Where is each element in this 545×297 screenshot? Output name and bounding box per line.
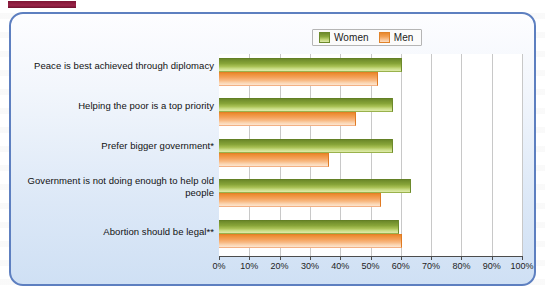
plot-area: 0%10%20%30%40%50%60%70%80%90%100% bbox=[219, 54, 522, 256]
chart-legend: Women Men bbox=[312, 29, 422, 46]
category-label-2: Prefer bigger government* bbox=[16, 140, 214, 152]
x-tick-90% bbox=[492, 256, 493, 260]
category-label-1: Helping the poor is a top priority bbox=[16, 100, 214, 112]
x-tick-label-20%: 20% bbox=[271, 261, 289, 271]
x-tick-30% bbox=[310, 256, 311, 260]
bar-women-4 bbox=[219, 220, 399, 234]
x-tick-70% bbox=[431, 256, 432, 260]
x-tick-label-90%: 90% bbox=[483, 261, 501, 271]
x-tick-label-80%: 80% bbox=[452, 261, 470, 271]
category-axis-labels: Peace is best achieved through diplomacy… bbox=[16, 54, 214, 256]
bar-women-1 bbox=[219, 98, 393, 112]
bar-men-4 bbox=[219, 234, 402, 248]
x-tick-label-30%: 30% bbox=[301, 261, 319, 271]
category-label-3: Government is not doing enough to help o… bbox=[16, 175, 214, 198]
x-tick-label-60%: 60% bbox=[392, 261, 410, 271]
legend-swatch-men-icon bbox=[379, 32, 390, 43]
x-tick-0% bbox=[219, 256, 220, 260]
bar-men-2 bbox=[219, 153, 329, 167]
bar-men-3 bbox=[219, 193, 381, 207]
gridline-100% bbox=[522, 54, 523, 256]
legend-label-women: Women bbox=[334, 32, 369, 43]
legend-label-men: Men bbox=[394, 32, 414, 43]
bar-group-1 bbox=[219, 94, 522, 134]
chart-panel: Women Men Peace is best achieved through… bbox=[9, 12, 536, 286]
category-label-4: Abortion should be legal** bbox=[16, 226, 214, 238]
x-tick-label-0%: 0% bbox=[212, 261, 225, 271]
legend-entry-men: Men bbox=[379, 32, 414, 43]
x-tick-50% bbox=[371, 256, 372, 260]
x-tick-10% bbox=[249, 256, 250, 260]
screenshot-root: Women Men Peace is best achieved through… bbox=[0, 0, 545, 297]
x-tick-20% bbox=[280, 256, 281, 260]
bar-men-1 bbox=[219, 112, 356, 126]
x-tick-100% bbox=[522, 256, 523, 260]
corner-tab-marker bbox=[8, 1, 76, 8]
x-tick-label-40%: 40% bbox=[331, 261, 349, 271]
bar-group-0 bbox=[219, 54, 522, 94]
x-tick-40% bbox=[340, 256, 341, 260]
x-tick-label-10%: 10% bbox=[240, 261, 258, 271]
legend-swatch-women-icon bbox=[319, 32, 330, 43]
bar-group-2 bbox=[219, 135, 522, 175]
bar-women-0 bbox=[219, 58, 402, 72]
x-tick-label-50%: 50% bbox=[361, 261, 379, 271]
x-tick-80% bbox=[461, 256, 462, 260]
legend-entry-women: Women bbox=[319, 32, 369, 43]
x-tick-label-70%: 70% bbox=[422, 261, 440, 271]
bar-group-4 bbox=[219, 216, 522, 256]
bar-group-3 bbox=[219, 175, 522, 215]
x-tick-label-100%: 100% bbox=[510, 261, 533, 271]
bar-women-2 bbox=[219, 139, 393, 153]
bar-women-3 bbox=[219, 179, 411, 193]
bar-men-0 bbox=[219, 72, 378, 86]
category-label-0: Peace is best achieved through diplomacy bbox=[16, 60, 214, 72]
x-tick-60% bbox=[401, 256, 402, 260]
